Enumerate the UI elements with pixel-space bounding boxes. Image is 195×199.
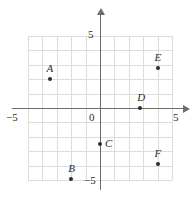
x-axis-tick-label-5: 5 bbox=[173, 112, 179, 123]
data-point-a bbox=[48, 77, 52, 81]
point-label-a: A bbox=[47, 63, 54, 74]
data-point-b bbox=[69, 177, 73, 181]
point-label-b: B bbox=[68, 163, 75, 174]
x-axis-tick-label-minus5: −5 bbox=[6, 112, 18, 123]
x-axis bbox=[12, 108, 184, 109]
point-label-f: F bbox=[155, 148, 162, 159]
point-label-c: C bbox=[105, 138, 112, 149]
y-axis-arrow-icon bbox=[97, 8, 105, 15]
point-label-d: D bbox=[137, 92, 145, 103]
x-axis-arrow-icon bbox=[183, 105, 190, 113]
data-point-e bbox=[156, 66, 160, 70]
coordinate-plane-figure: −5 5 5 −5 0 ABCDEF bbox=[0, 0, 195, 199]
y-axis-tick-label-5: 5 bbox=[88, 29, 94, 40]
y-axis-tick-label-minus5: −5 bbox=[84, 175, 96, 186]
origin-label: 0 bbox=[89, 112, 95, 123]
data-point-f bbox=[156, 162, 160, 166]
y-axis bbox=[100, 14, 101, 190]
data-point-c bbox=[98, 142, 102, 146]
point-label-e: E bbox=[155, 52, 162, 63]
